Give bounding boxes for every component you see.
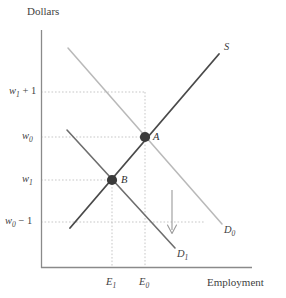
x-tick-sub: 0 (145, 281, 149, 290)
point-label-B: B (121, 175, 127, 186)
point-label-A: A (153, 132, 159, 143)
curve-label-base: D (177, 248, 185, 259)
figure-root: Dollars Employment w1 + 1 w0 w1 w0 − 1 E… (0, 0, 286, 298)
x-axis-title: Employment (207, 277, 264, 288)
axes (41, 30, 252, 268)
curve-label-base: D (224, 224, 232, 235)
y-tick-label-w1: w1 (22, 174, 33, 187)
y-tick-base: w (9, 85, 16, 96)
curve-label-demand1: D1 (177, 249, 188, 262)
y-tick-suffix: + 1 (20, 85, 36, 96)
downward-shift-arrow (168, 190, 177, 234)
curve-label-sub: 0 (232, 229, 236, 238)
x-tick-sub: 1 (112, 281, 116, 290)
y-tick-sub: 1 (29, 178, 33, 187)
y-tick-base: w (5, 215, 12, 226)
curve-label-demand0: D0 (224, 225, 235, 238)
y-tick-label-w1-plus-1: w1 + 1 (9, 86, 36, 99)
x-tick-label-E0: E0 (139, 277, 149, 290)
y-tick-suffix: − 1 (16, 215, 32, 226)
y-axis-title: Dollars (27, 6, 59, 17)
y-tick-label-w0: w0 (22, 131, 33, 144)
demand-curve-D1 (67, 130, 175, 248)
y-tick-sub: 0 (29, 135, 33, 144)
curve-label-supply: S (224, 42, 229, 55)
y-tick-label-w0-minus-1: w0 − 1 (5, 216, 32, 229)
y-tick-base: w (22, 173, 29, 184)
chart-canvas (0, 0, 286, 298)
x-tick-label-E1: E1 (106, 277, 116, 290)
equilibrium-point-B (107, 175, 117, 185)
y-tick-base: w (22, 130, 29, 141)
curve-label-base: S (224, 41, 229, 52)
equilibrium-point-A (140, 132, 150, 142)
curve-label-sub: 1 (185, 253, 189, 262)
